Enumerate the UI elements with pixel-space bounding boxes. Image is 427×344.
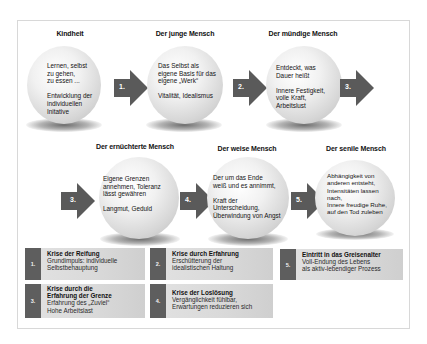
crisis-number: 4. — [150, 284, 166, 318]
stage-text-junge: Das Selbst als eigene Basis für das eige… — [158, 62, 216, 100]
stage-text-ernuechterte: Eigene Grenzen annehmen, Toleranz lässt … — [103, 175, 161, 213]
arrow-label: 2. — [238, 83, 244, 90]
crisis-title: Krise durch die Erfahrung der Grenze — [47, 285, 112, 299]
stage-title-weise: Der weise Mensch — [217, 145, 276, 152]
arrow-label: 3. — [70, 196, 76, 203]
arrow-right-icon — [61, 183, 95, 219]
crisis-title: Eintritt in das Greisenalter — [302, 251, 381, 258]
crisis-number: 5. — [280, 249, 296, 280]
stage-text-weise: Der um das Ende weiß und es annimmt, Kra… — [213, 174, 281, 220]
stage-title-senile: Der senile Mensch — [326, 145, 386, 152]
crisis-title: Krise der Loslösung — [172, 289, 252, 296]
crisis-box-5: 5. Eintritt in das Greisenalter Voll-End… — [280, 249, 403, 280]
stage-title-muendige: Der mündige Mensch — [269, 30, 338, 37]
stage-text-muendige: Entdeckt, was Dauer heißt Innere Festigk… — [276, 64, 325, 110]
arrow-label: 5. — [296, 196, 302, 203]
crisis-description: Voll-Endung des Lebens als aktiv-lebendi… — [302, 258, 381, 272]
crisis-description: Vergänglichkeit fühlbar, Erwartungen red… — [172, 296, 252, 310]
crisis-box-3: 3. Krise durch die Erfahrung der Grenze … — [25, 284, 145, 318]
arrow-1: 1. — [114, 70, 148, 106]
crisis-description: Grundimpuls: individuelle Selbstbehauptu… — [47, 257, 117, 271]
crisis-title: Krise der Reifung — [47, 250, 117, 257]
stage-title-ernuechterte: Der ernüchterte Mensch — [96, 143, 174, 150]
crisis-title: Krise durch Erfahrung — [172, 250, 239, 257]
arrow-3-bottom: 3. — [61, 183, 95, 219]
stage-text-senile: Abhängigkeit von anderen entsteht, Inten… — [327, 172, 387, 216]
crisis-number: 2. — [150, 248, 166, 280]
stage-title-junge: Der junge Mensch — [156, 30, 215, 37]
crisis-description: Erfahrung des „Zuviel“ Hohe Arbeitslast — [47, 299, 112, 313]
crisis-box-4: 4. Krise der Loslösung Vergänglichkeit f… — [150, 284, 273, 318]
crisis-box-1: 1. Krise der Reifung Grundimpuls: indivi… — [25, 248, 145, 280]
arrow-label: 3. — [345, 83, 351, 90]
arrow-3-top: 3. — [340, 70, 374, 106]
stage-title-kindheit: Kindheit — [56, 30, 83, 37]
crisis-number: 1. — [25, 248, 41, 280]
stage-text-kindheit: Lernen, selbst zu gehen, zu essen ... En… — [47, 62, 92, 115]
crisis-number: 3. — [25, 284, 41, 318]
crisis-description: Erschütterung der idealistischen Haltung — [172, 257, 239, 271]
arrow-label: 4. — [185, 196, 191, 203]
crisis-box-2: 2. Krise durch Erfahrung Erschütterung d… — [150, 248, 273, 280]
arrow-2: 2. — [233, 70, 267, 106]
arrow-label: 1. — [119, 83, 125, 90]
